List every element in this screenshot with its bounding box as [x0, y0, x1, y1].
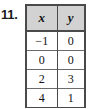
- cell-y: 0: [57, 31, 85, 51]
- table-row: 0 0: [26, 51, 85, 70]
- column-header-y: y: [57, 5, 85, 31]
- xy-value-table: x y −1 0 0 0 2 3 4 1: [25, 4, 86, 108]
- table-row: −1 0: [26, 31, 85, 51]
- cell-x: 4: [26, 89, 57, 109]
- column-header-x: x: [26, 5, 57, 31]
- table-row: 2 3: [26, 70, 85, 89]
- table-header: x y: [26, 5, 85, 31]
- table-row: 4 1: [26, 89, 85, 109]
- problem-number: 11.: [1, 8, 18, 21]
- cell-y: 3: [57, 70, 85, 89]
- problem-item: 11. x y −1 0 0 0 2 3 4: [0, 0, 88, 108]
- table-header-row: x y: [26, 5, 85, 31]
- cell-y: 0: [57, 51, 85, 70]
- cell-x: −1: [26, 31, 57, 51]
- cell-x: 0: [26, 51, 57, 70]
- cell-x: 2: [26, 70, 57, 89]
- cell-y: 1: [57, 89, 85, 109]
- table-body: −1 0 0 0 2 3 4 1: [26, 31, 85, 108]
